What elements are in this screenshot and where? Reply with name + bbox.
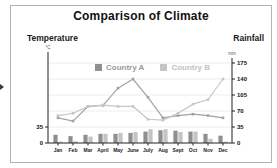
svg-text:Dec: Dec bbox=[218, 147, 227, 153]
svg-text:Nov: Nov bbox=[203, 147, 213, 153]
svg-text:175: 175 bbox=[237, 60, 248, 66]
svg-text:35: 35 bbox=[36, 124, 43, 130]
country-b-swatch-icon bbox=[160, 64, 167, 71]
legend: Country A Country B bbox=[95, 63, 210, 72]
svg-text:Sept: Sept bbox=[173, 147, 184, 153]
svg-text:Mar: Mar bbox=[84, 147, 93, 153]
svg-text:Jan: Jan bbox=[54, 147, 63, 153]
legend-item-country-a: Country A bbox=[95, 63, 144, 72]
climate-plot: 35017514010570350°CmmJanFebMarAprilMayJu… bbox=[11, 6, 271, 162]
svg-text:140: 140 bbox=[237, 76, 248, 82]
legend-label-country-a: Country A bbox=[106, 63, 144, 72]
svg-text:Aug: Aug bbox=[158, 147, 168, 153]
svg-text:April: April bbox=[97, 147, 109, 153]
svg-text:70: 70 bbox=[237, 108, 244, 114]
country-a-swatch-icon bbox=[95, 64, 102, 71]
svg-text:June: June bbox=[127, 147, 139, 153]
svg-text:0: 0 bbox=[40, 140, 44, 146]
svg-text:mm: mm bbox=[228, 51, 236, 56]
svg-text:May: May bbox=[113, 147, 123, 153]
svg-text:105: 105 bbox=[237, 92, 248, 98]
svg-text:35: 35 bbox=[237, 124, 244, 130]
legend-label-country-b: Country B bbox=[171, 63, 210, 72]
svg-text:Feb: Feb bbox=[69, 147, 78, 153]
svg-text:0: 0 bbox=[237, 140, 241, 146]
left-edge-arrow-icon bbox=[0, 84, 4, 90]
svg-text:°C: °C bbox=[45, 45, 51, 50]
climate-chart-card: Comparison of Climate Temperature Rainfa… bbox=[10, 5, 272, 163]
svg-text:Oct: Oct bbox=[189, 147, 198, 153]
svg-text:July: July bbox=[143, 147, 153, 153]
legend-item-country-b: Country B bbox=[160, 63, 210, 72]
